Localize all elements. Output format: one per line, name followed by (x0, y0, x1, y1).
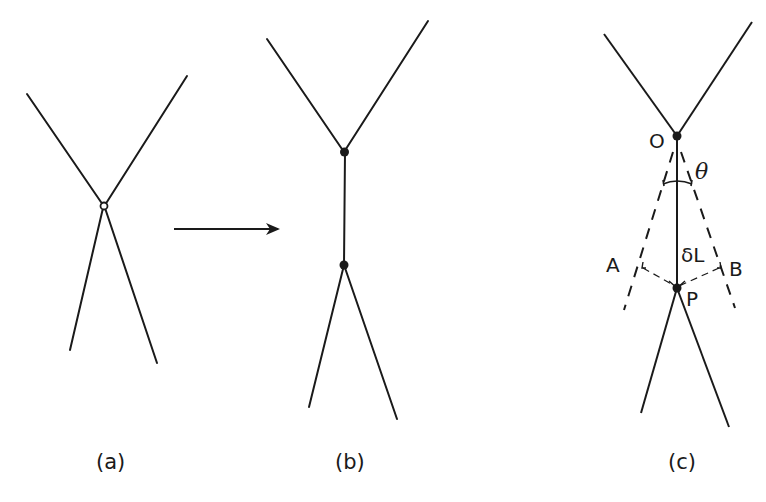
dashed-line-AP (643, 268, 675, 286)
vertex-a-open (101, 203, 108, 210)
angle-arc-tick-left (663, 180, 664, 186)
label-A: A (606, 255, 620, 275)
panel-label-c: (c) (668, 452, 696, 473)
edge-c-upper-left (604, 34, 677, 136)
edge-b-lower-left (309, 265, 344, 407)
panel-a-graph (27, 76, 187, 363)
dashed-line-OA (624, 152, 673, 310)
vertex-O (673, 132, 682, 141)
edge-b-upper-left (267, 39, 344, 152)
label-O: O (649, 131, 665, 151)
diagram-svg (0, 0, 766, 502)
angle-arc-tick-right (691, 180, 692, 186)
edge-a-lower-left (70, 208, 103, 350)
edge-a-upper-right (105, 76, 187, 205)
label-B: B (729, 259, 743, 279)
right-angle-mark-A (642, 262, 646, 268)
panel-c-graph (604, 22, 752, 427)
edge-c-lower-left (641, 288, 677, 413)
vertex-b-lower (340, 261, 349, 270)
edge-a-upper-left (27, 94, 103, 205)
panel-b-graph (267, 21, 428, 419)
panel-label-a: (a) (96, 452, 125, 473)
dashed-line-BP (679, 268, 719, 286)
vertex-P (673, 284, 682, 293)
edge-c-lower-right (677, 288, 729, 427)
label-theta: θ (695, 161, 708, 183)
diagram-canvas: O θ δL A B P (a) (b) (c) (0, 0, 766, 502)
panel-label-b: (b) (335, 452, 365, 473)
label-delta-L: δL (681, 245, 704, 265)
vertex-b-upper (340, 148, 349, 157)
edge-b-upper-right (344, 21, 428, 152)
edge-b-lower-right (344, 265, 397, 419)
right-angle-mark-B (717, 262, 721, 268)
edge-c-upper-right (677, 22, 752, 136)
edge-a-lower-right (105, 208, 157, 363)
edge-b-middle (344, 152, 345, 265)
label-P: P (686, 289, 698, 309)
